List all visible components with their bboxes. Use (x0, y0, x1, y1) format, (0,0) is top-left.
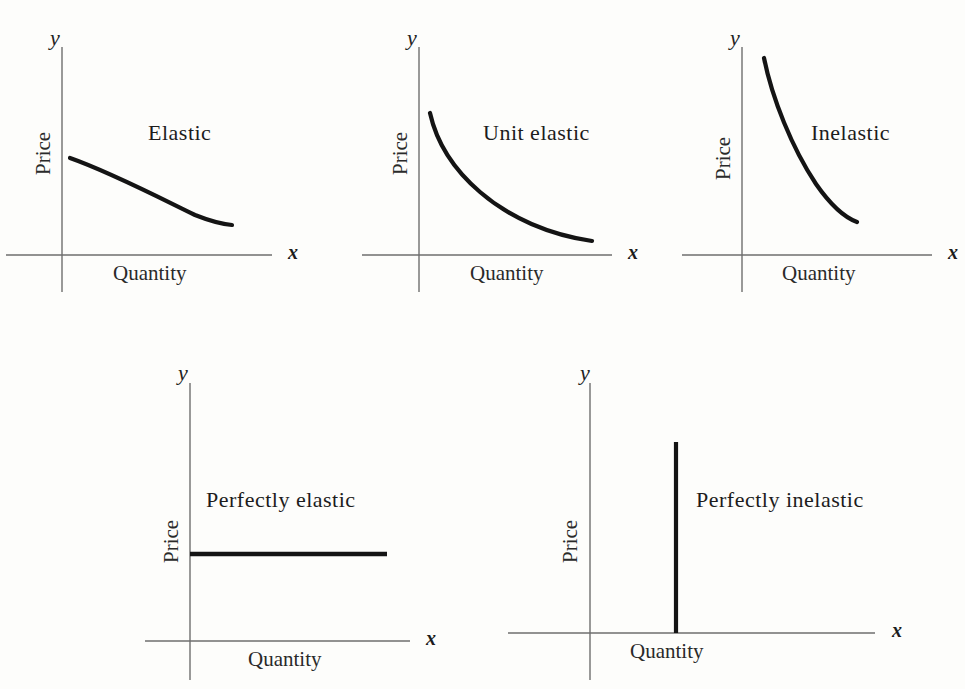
elasticity-figure: y x Price Quantity Elastic y x Price Qua… (0, 0, 965, 689)
panel-perfectly-elastic: y x Price Quantity Perfectly elastic (130, 350, 470, 689)
price-axis-label: Price (560, 520, 581, 563)
caption-perfectly-elastic: Perfectly elastic (206, 489, 356, 511)
y-axis-symbol: y (178, 362, 188, 384)
panel-elastic: y x Price Quantity Elastic (0, 0, 330, 310)
panel-inelastic: y x Price Quantity Inelastic (660, 0, 965, 310)
price-axis-label: Price (713, 137, 734, 180)
quantity-axis-label: Quantity (470, 263, 544, 284)
caption-inelastic: Inelastic (811, 122, 890, 144)
x-axis-symbol: x (948, 242, 958, 262)
y-axis-symbol: y (407, 27, 417, 49)
demand-curve-elastic (70, 158, 232, 225)
y-axis-symbol: y (50, 27, 60, 49)
price-axis-label: Price (33, 132, 54, 175)
x-axis-symbol: x (426, 628, 436, 648)
panel-perfectly-inelastic: y x Price Quantity Perfectly inelastic (480, 350, 965, 689)
x-axis-symbol: x (628, 242, 638, 262)
caption-unit-elastic: Unit elastic (483, 122, 590, 144)
x-axis-symbol: x (288, 242, 298, 262)
quantity-axis-label: Quantity (113, 263, 187, 284)
quantity-axis-label: Quantity (248, 649, 322, 670)
caption-perfectly-inelastic: Perfectly inelastic (696, 489, 864, 511)
y-axis-symbol: y (730, 27, 740, 49)
y-axis-symbol: y (580, 362, 590, 384)
caption-elastic: Elastic (148, 122, 211, 144)
quantity-axis-label: Quantity (630, 641, 704, 662)
x-axis-symbol: x (892, 620, 902, 640)
price-axis-label: Price (161, 520, 182, 563)
panel-unit-elastic: y x Price Quantity Unit elastic (340, 0, 670, 310)
price-axis-label: Price (390, 132, 411, 175)
quantity-axis-label: Quantity (782, 263, 856, 284)
